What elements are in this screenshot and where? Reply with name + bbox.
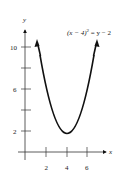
x-tick-2: 2 (45, 164, 49, 172)
y-tick-2: 2 (13, 128, 17, 136)
x-tick-6: 6 (85, 164, 89, 172)
y-axis-label: y (22, 16, 27, 24)
y-tick-10: 10 (10, 44, 18, 52)
y-tick-6: 6 (13, 86, 17, 94)
parabola-curve (40, 55, 94, 134)
equation-label: (x − 4)2 = y − 2 (67, 28, 111, 37)
x-axis-label: x (108, 148, 113, 156)
parabola-chart: y x 10 6 2 2 4 6 (x − 4)2 = y − 2 (0, 0, 123, 182)
x-tick-4: 4 (65, 164, 69, 172)
y-ticks (21, 47, 31, 131)
